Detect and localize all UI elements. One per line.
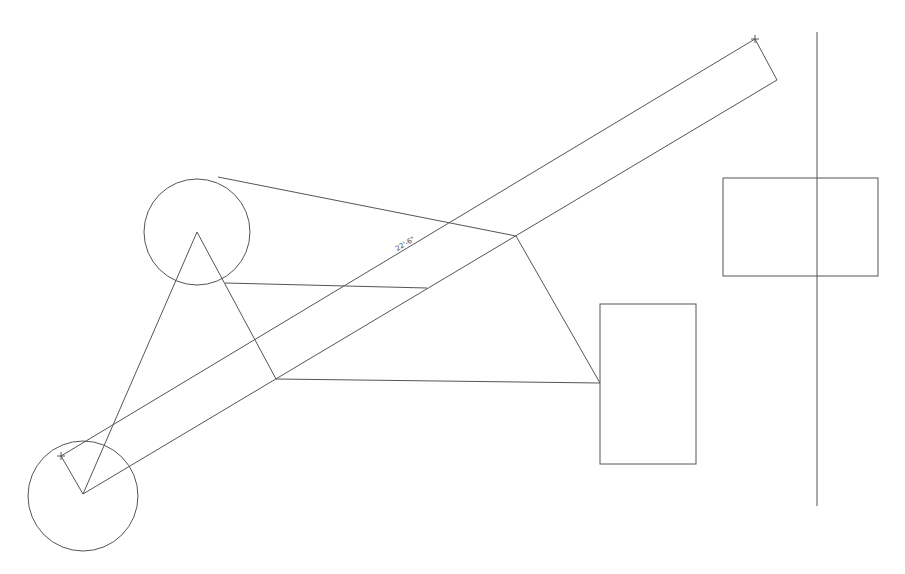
link-right [197,232,276,379]
tangent-line-top [218,177,516,236]
star-marker-icon [751,35,759,43]
bar-upper-edge [61,39,755,456]
horizontal-short [225,283,427,288]
right-rect [723,178,878,276]
star-marker-icon [57,452,65,460]
connector-lines [218,177,600,383]
bottom-circle [28,441,138,551]
triangle-linkage [83,232,276,494]
diagonal-to-rect [516,236,600,383]
middle-rect [600,304,696,464]
horizontal-to-rect [276,379,600,383]
cad-drawing-canvas: 22'-6" [0,0,905,574]
link-left [83,232,197,494]
bar-member: 22'-6" [57,35,777,494]
bar-lower-edge [83,80,777,494]
bar-end-cap [755,39,777,80]
bar-start-cap [61,456,83,494]
dimension-label: 22'-6" [394,235,416,253]
